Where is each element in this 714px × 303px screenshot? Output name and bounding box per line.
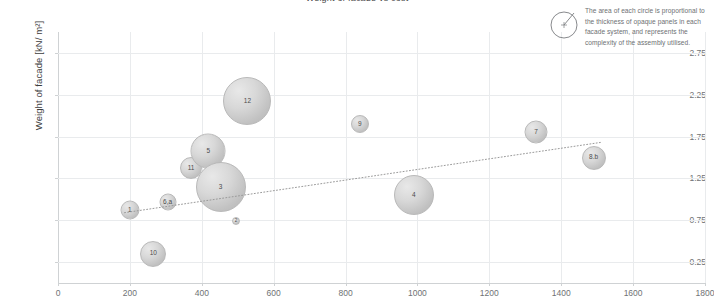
x-tick-label: 0 bbox=[56, 288, 61, 298]
x-tick-label: 1200 bbox=[480, 288, 499, 298]
bubble-label: 4 bbox=[412, 192, 416, 199]
bubble-point[interactable]: 6,a bbox=[159, 193, 176, 210]
bubble-point[interactable]: 2 bbox=[232, 217, 240, 225]
gridline-vertical bbox=[633, 32, 634, 283]
plot-area: 1106,a11532129478.b bbox=[58, 32, 705, 283]
bubble-chart-figure: Weight of facade vs cost Weight of facad… bbox=[0, 0, 714, 303]
page-title: Weight of facade vs cost bbox=[0, 0, 714, 3]
gridline-vertical bbox=[489, 32, 490, 283]
annotation-text: The area of each circle is proportional … bbox=[585, 6, 711, 49]
bubble-point[interactable]: 3 bbox=[196, 162, 246, 212]
bubble-point[interactable]: 9 bbox=[351, 115, 369, 133]
bubble-label: 1 bbox=[128, 207, 132, 214]
gridline-horizontal bbox=[58, 95, 705, 96]
bubble-point[interactable]: 7 bbox=[525, 120, 548, 143]
x-tick-label: 1600 bbox=[624, 288, 643, 298]
gridline-vertical bbox=[561, 32, 562, 283]
annotation-box: The area of each circle is proportional … bbox=[549, 6, 711, 49]
bubble-label: 3 bbox=[219, 184, 223, 191]
bubble-point[interactable]: 12 bbox=[223, 77, 271, 125]
x-tick-label: 800 bbox=[339, 288, 353, 298]
bubble-point[interactable]: 1 bbox=[120, 201, 139, 220]
bubble-label: 2 bbox=[235, 219, 238, 224]
bubble-label: 5 bbox=[206, 148, 210, 155]
bubble-label: 8.b bbox=[589, 154, 598, 161]
gridline-horizontal bbox=[58, 137, 705, 138]
bubble-point[interactable]: 10 bbox=[140, 241, 166, 267]
gridline-vertical bbox=[346, 32, 347, 283]
x-tick-mark bbox=[705, 283, 706, 286]
bubble-point[interactable]: 8.b bbox=[582, 146, 606, 170]
bubble-label: 6,a bbox=[163, 199, 172, 206]
gridline-vertical bbox=[705, 32, 706, 283]
gridline-vertical bbox=[274, 32, 275, 283]
gridline-horizontal bbox=[58, 220, 705, 221]
bubble-point[interactable]: 4 bbox=[394, 175, 434, 215]
x-axis-line bbox=[58, 283, 705, 284]
x-tick-label: 1400 bbox=[552, 288, 571, 298]
bubble-label: 12 bbox=[244, 98, 251, 105]
x-tick-label: 400 bbox=[195, 288, 209, 298]
bubble-label: 9 bbox=[358, 121, 362, 128]
x-tick-label: 200 bbox=[123, 288, 137, 298]
gridline-horizontal bbox=[58, 178, 705, 179]
bubble-label: 7 bbox=[534, 128, 538, 135]
bubble-label: 10 bbox=[150, 250, 157, 257]
gridline-vertical bbox=[417, 32, 418, 283]
gridline-vertical bbox=[130, 32, 131, 283]
x-tick-label: 600 bbox=[267, 288, 281, 298]
y-axis-title: Weight of facade [kN/ m²] bbox=[33, 0, 44, 156]
circle-with-radius-icon bbox=[549, 8, 581, 40]
x-tick-label: 1000 bbox=[408, 288, 427, 298]
bubble-label: 11 bbox=[188, 165, 195, 172]
gridline-horizontal bbox=[58, 53, 705, 54]
x-tick-label: 1800 bbox=[696, 288, 714, 298]
